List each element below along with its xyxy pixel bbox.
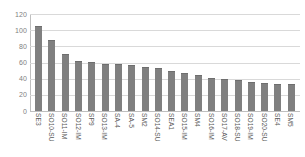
bar-slot <box>285 14 298 111</box>
y-axis-tick-label: 40 <box>1 75 27 82</box>
x-axis-category-label: SO20-SU <box>261 113 268 142</box>
bar <box>75 61 82 111</box>
bar-slot <box>165 14 178 111</box>
x-label-slot: SM4 <box>192 112 205 157</box>
bar-slot <box>32 14 45 111</box>
bar-slot <box>138 14 151 111</box>
x-label-slot: SEA1 <box>165 112 178 157</box>
bar-slot <box>45 14 58 111</box>
y-axis-tick-label: 0 <box>1 108 27 115</box>
x-label-slot: SM5 <box>285 112 298 157</box>
bar-slot <box>98 14 111 111</box>
x-axis-category-label: SA-4 <box>115 113 122 128</box>
x-label-slot: SO17-AV <box>218 112 231 157</box>
x-axis-category-label: SO13-IM <box>101 113 108 140</box>
bar-slot <box>72 14 85 111</box>
bar <box>221 79 228 111</box>
x-label-slot: SO18-SU <box>231 112 244 157</box>
bar <box>62 54 69 111</box>
x-axis-category-label: SE3 <box>35 113 42 126</box>
bar <box>155 68 162 111</box>
bar-slot <box>192 14 205 111</box>
bar-slot <box>271 14 284 111</box>
bar <box>168 71 175 111</box>
y-axis-tick-label: 120 <box>1 11 27 18</box>
bar <box>142 67 149 111</box>
bar <box>195 75 202 111</box>
x-label-slot: SO14-SU <box>152 112 165 157</box>
bar <box>102 64 109 111</box>
bar-series <box>30 14 300 111</box>
x-label-slot: SA-5 <box>125 112 138 157</box>
bar <box>128 65 135 111</box>
bar <box>88 62 95 111</box>
bar <box>35 26 42 111</box>
x-label-slot: SM2 <box>138 112 151 157</box>
bar <box>208 78 215 111</box>
bar-slot <box>218 14 231 111</box>
bar-slot <box>59 14 72 111</box>
x-axis-category-label: SE4 <box>274 113 281 126</box>
bar-slot <box>258 14 271 111</box>
bar <box>288 84 295 111</box>
x-axis-category-label: SO18-SU <box>234 113 241 142</box>
plot-area <box>30 14 300 111</box>
x-label-slot: SA-4 <box>112 112 125 157</box>
bar <box>115 64 122 111</box>
x-label-slot: SO19-IM <box>245 112 258 157</box>
x-label-slot: SO12-IM <box>72 112 85 157</box>
bar <box>181 73 188 111</box>
x-label-slot: SP9 <box>85 112 98 157</box>
bar-chart: 020406080100120 SE3SO10-SUSO11-IMSO12-IM… <box>0 0 305 157</box>
bar-slot <box>245 14 258 111</box>
x-axis-category-label: SO10-SU <box>48 113 55 142</box>
x-label-slot: SO11-IM <box>59 112 72 157</box>
bar-slot <box>152 14 165 111</box>
x-axis-category-label: SP9 <box>88 113 95 126</box>
bar-slot <box>231 14 244 111</box>
x-axis-category-labels: SE3SO10-SUSO11-IMSO12-IMSP9SO13-IMSA-4SA… <box>30 112 300 157</box>
bar-slot <box>125 14 138 111</box>
x-axis-category-label: SM2 <box>141 113 148 127</box>
y-axis-tick-label: 100 <box>1 27 27 34</box>
x-label-slot: SO16-IM <box>205 112 218 157</box>
x-axis-category-label: SEA1 <box>168 113 175 130</box>
y-axis-tick-label: 60 <box>1 59 27 66</box>
x-axis-category-label: SA-5 <box>128 113 135 128</box>
x-axis-category-label: SO15-IM <box>181 113 188 140</box>
x-label-slot: SO15-IM <box>178 112 191 157</box>
x-axis-category-label: SO17-AV <box>221 113 228 141</box>
bar <box>48 40 55 111</box>
y-axis-tick-label: 80 <box>1 43 27 50</box>
bar-slot <box>178 14 191 111</box>
bar <box>235 80 242 111</box>
x-axis-category-label: SM5 <box>287 113 294 127</box>
bar-slot <box>205 14 218 111</box>
x-axis-category-label: SM4 <box>194 113 201 127</box>
x-label-slot: SO20-SU <box>258 112 271 157</box>
bar <box>261 83 268 111</box>
x-axis-category-label: SO11-IM <box>61 113 68 139</box>
x-label-slot: SE3 <box>32 112 45 157</box>
bar <box>274 84 281 111</box>
x-label-slot: SO10-SU <box>45 112 58 157</box>
y-axis-tick-label: 20 <box>1 91 27 98</box>
x-label-slot: SO13-IM <box>98 112 111 157</box>
x-axis-category-label: SO14-SU <box>155 113 162 142</box>
x-axis-category-label: SO19-IM <box>248 113 255 140</box>
x-axis-category-label: SO12-IM <box>75 113 82 140</box>
bar-slot <box>85 14 98 111</box>
bar-slot <box>112 14 125 111</box>
x-label-slot: SE4 <box>271 112 284 157</box>
bar <box>248 82 255 111</box>
x-axis-category-label: SO16-IM <box>208 113 215 140</box>
